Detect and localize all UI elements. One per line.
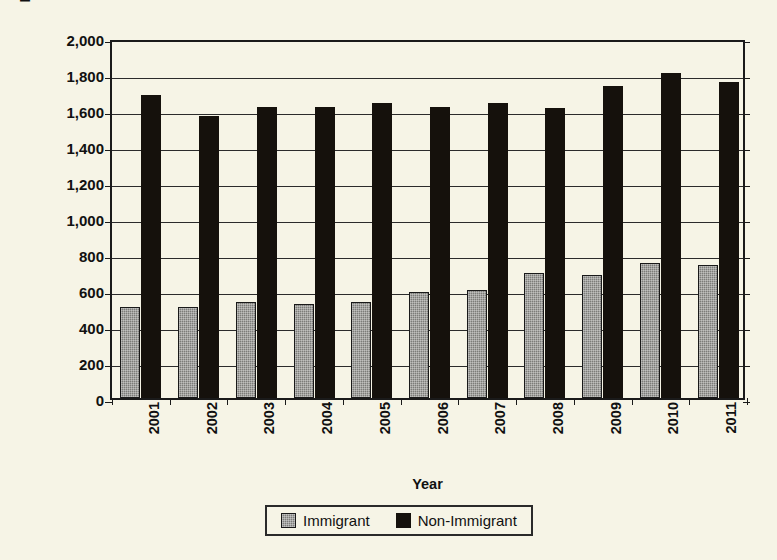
y-axis-tick-mark <box>105 330 112 331</box>
bar-non-immigrant-2001 <box>141 95 161 398</box>
x-axis-tick-label-2001: 2001 <box>146 402 162 472</box>
bar-chart: Number of People (in thousands) 02004006… <box>0 0 777 560</box>
x-axis-title: Year <box>110 476 745 492</box>
x-axis-tick-label-2009: 2009 <box>608 402 624 472</box>
y-axis-tick-mark <box>105 222 112 223</box>
bar-non-immigrant-2006 <box>430 107 450 398</box>
bar-immigrant-2003 <box>236 302 256 398</box>
y-axis-tick-mark <box>743 114 750 115</box>
x-axis-tick-label-2004: 2004 <box>319 402 335 472</box>
y-axis-tick-mark <box>105 150 112 151</box>
bar-non-immigrant-2009 <box>603 86 623 398</box>
y-axis-tick-mark <box>743 294 750 295</box>
y-axis-tick-mark <box>105 114 112 115</box>
legend-label: Non-Immigrant <box>418 512 517 529</box>
y-axis-tick-mark <box>743 258 750 259</box>
legend-swatch-nonimmigrant-icon <box>396 513 411 528</box>
y-axis-tick-mark <box>105 366 112 367</box>
x-axis-tick-label-2010: 2010 <box>665 402 681 472</box>
y-axis-tick-mark <box>743 366 750 367</box>
bar-non-immigrant-2007 <box>488 103 508 398</box>
x-axis-tick-label-2011: 2011 <box>723 402 739 472</box>
bar-non-immigrant-2010 <box>661 73 681 398</box>
y-axis-tick-mark <box>743 222 750 223</box>
bar-non-immigrant-2005 <box>372 103 392 398</box>
y-axis-tick-label: 2,000 <box>0 32 104 49</box>
y-axis-tick-mark <box>105 186 112 187</box>
y-axis-tick-label: 1,200 <box>0 176 104 193</box>
x-axis-tick-labels: 2001200220032004200520062007200820092010… <box>110 404 745 474</box>
y-axis-tick-label: 1,400 <box>0 140 104 157</box>
bar-immigrant-2006 <box>409 292 429 398</box>
bar-immigrant-2005 <box>351 302 371 398</box>
legend-item-immigrant[interactable]: Immigrant <box>281 512 370 529</box>
y-axis-tick-label: 800 <box>0 248 104 265</box>
x-axis-tick-label-2005: 2005 <box>377 402 393 472</box>
bars-layer <box>112 42 743 398</box>
bar-immigrant-2011 <box>698 265 718 398</box>
y-axis-tick-label: 0 <box>0 392 104 409</box>
y-axis-tick-mark <box>105 402 112 403</box>
bar-non-immigrant-2002 <box>199 116 219 398</box>
y-axis-tick-label: 600 <box>0 284 104 301</box>
y-axis-tick-label: 1,000 <box>0 212 104 229</box>
y-axis-tick-mark <box>743 330 750 331</box>
x-axis-tick-label-2007: 2007 <box>492 402 508 472</box>
legend-swatch-immigrant-icon <box>281 513 296 528</box>
x-axis-tick-label-2003: 2003 <box>261 402 277 472</box>
x-axis-tick-mark <box>747 398 748 405</box>
legend-label: Immigrant <box>303 512 370 529</box>
bar-non-immigrant-2011 <box>719 82 739 398</box>
y-axis-tick-mark <box>743 186 750 187</box>
y-axis-tick-label: 400 <box>0 320 104 337</box>
y-axis-tick-mark <box>105 42 112 43</box>
bar-non-immigrant-2003 <box>257 107 277 398</box>
bar-non-immigrant-2004 <box>315 107 335 398</box>
y-axis-tick-label: 1,600 <box>0 104 104 121</box>
y-axis-tick-label: 200 <box>0 356 104 373</box>
y-axis-tick-mark <box>105 78 112 79</box>
y-axis-tick-label: 1,800 <box>0 68 104 85</box>
bar-non-immigrant-2008 <box>545 108 565 398</box>
bar-immigrant-2001 <box>120 307 140 398</box>
x-axis-tick-label-2006: 2006 <box>435 402 451 472</box>
x-axis-tick-label-2008: 2008 <box>550 402 566 472</box>
y-axis-tick-mark <box>105 294 112 295</box>
y-axis-tick-mark <box>743 42 750 43</box>
bar-immigrant-2004 <box>294 304 314 399</box>
bar-immigrant-2010 <box>640 263 660 398</box>
plot-area <box>110 40 745 400</box>
y-axis-tick-mark <box>105 258 112 259</box>
chart-legend: ImmigrantNon-Immigrant <box>265 505 533 536</box>
bar-immigrant-2008 <box>524 273 544 398</box>
y-axis-tick-mark <box>743 150 750 151</box>
y-axis-tick-labels: 02004006008001,0001,2001,4001,6001,8002,… <box>0 0 104 560</box>
y-axis-tick-mark <box>743 78 750 79</box>
bar-immigrant-2007 <box>467 290 487 398</box>
x-axis-tick-label-2002: 2002 <box>204 402 220 472</box>
bar-immigrant-2002 <box>178 307 198 398</box>
legend-item-nonimmigrant[interactable]: Non-Immigrant <box>396 512 517 529</box>
bar-immigrant-2009 <box>582 275 602 398</box>
